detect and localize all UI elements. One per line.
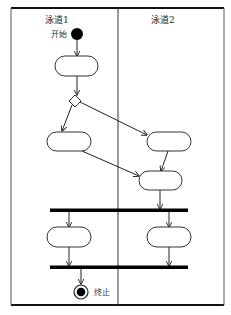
- lane-title-2: 泳道2: [151, 13, 175, 26]
- start-node: [71, 28, 83, 40]
- start-label: 开始: [51, 28, 67, 39]
- activity-node: [47, 227, 91, 247]
- activity-node: [139, 171, 182, 190]
- activity-node: [47, 132, 91, 151]
- join-bar: [50, 266, 188, 270]
- end-node: [74, 285, 88, 299]
- lane-title-1: 泳道1: [45, 13, 69, 26]
- activity-node: [147, 132, 191, 151]
- activity-node: [147, 227, 191, 247]
- activity-diagram: 泳道1 泳道2 开始 终止: [0, 0, 231, 315]
- end-label: 终止: [94, 286, 110, 297]
- fork-bar: [50, 209, 188, 213]
- decision-node: [69, 95, 81, 107]
- activity-node: [55, 56, 98, 76]
- swimlane-frame: [11, 8, 224, 305]
